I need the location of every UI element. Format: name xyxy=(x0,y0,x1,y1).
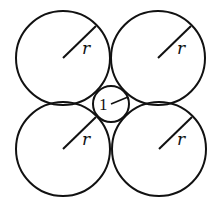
radius-label-bottom-right: r xyxy=(177,129,186,149)
circles-diagram: r r r r 1 xyxy=(0,0,209,208)
radius-line-bottom-right xyxy=(159,117,192,149)
radius-line-bottom-left xyxy=(63,117,96,149)
radius-line-small xyxy=(111,97,128,104)
radius-line-top-left xyxy=(63,26,96,58)
radius-label-top-left: r xyxy=(82,38,91,58)
radius-label-small: 1 xyxy=(99,95,108,114)
radius-label-top-right: r xyxy=(177,38,186,58)
diagram-canvas: r r r r 1 xyxy=(0,0,209,208)
radius-line-top-right xyxy=(158,26,191,58)
radius-label-bottom-left: r xyxy=(82,129,91,149)
